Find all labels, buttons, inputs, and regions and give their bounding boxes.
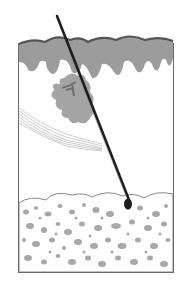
skin-diagram — [0, 0, 187, 292]
subcutaneous-fat — [19, 193, 173, 272]
hair-bulb — [124, 199, 132, 210]
